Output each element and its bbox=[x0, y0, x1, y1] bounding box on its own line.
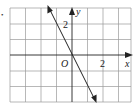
origin-label: O bbox=[61, 58, 68, 69]
y-axis-label: y bbox=[75, 6, 81, 17]
coordinate-graph: • y 2 O 2 x bbox=[0, 0, 133, 110]
x-axis-label: x bbox=[124, 58, 130, 69]
line-arrow-top-icon bbox=[47, 5, 52, 13]
bullet-marker: • bbox=[1, 11, 4, 19]
y-tick-label: 2 bbox=[63, 19, 68, 30]
x-tick-label: 2 bbox=[100, 58, 105, 69]
